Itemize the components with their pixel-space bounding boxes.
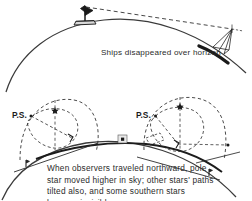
pole-star-label-right: P.S. [136,110,151,120]
top-sight-line [86,7,232,29]
diagram-figure: Ships disappeared over horizon P.S. P.S.… [0,0,252,201]
bottom-panel-caption: When observers traveled northward, pole … [47,163,215,201]
bottom-right-tangent [196,152,240,163]
top-panel-caption: Ships disappeared over horizon [101,48,221,57]
earth-center-marker [118,135,127,143]
pole-star-label-left: P.S. [12,110,27,120]
near-ship [74,6,96,26]
